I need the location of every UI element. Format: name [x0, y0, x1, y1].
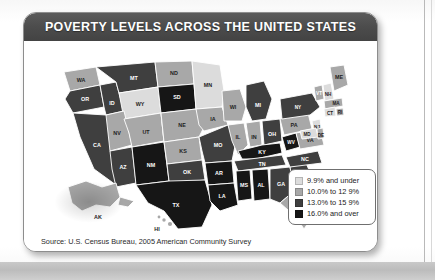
map-state-WI[interactable]: WI — [222, 89, 246, 121]
svg-text:AK: AK — [94, 214, 102, 220]
map-state-AR[interactable]: AR — [205, 161, 234, 185]
legend-label-tier4: 16.0% and over — [307, 209, 359, 218]
page-rule-right-secondary — [431, 0, 432, 280]
page-root: POVERTY LEVELS ACROSS THE UNITED STATES … — [0, 0, 435, 280]
legend-swatch-tier3 — [295, 199, 303, 207]
map-state-ME[interactable]: ME — [330, 65, 348, 91]
map-state-OK[interactable]: OK — [167, 160, 205, 183]
map-state-TX[interactable]: TX — [136, 180, 212, 229]
source-note: Source: U.S. Census Bureau, 2005 America… — [41, 237, 251, 246]
map-state-AK[interactable]: AK — [68, 181, 134, 220]
page-rule-right — [424, 0, 425, 280]
svg-text:HI: HI — [154, 226, 160, 232]
map-card: POVERTY LEVELS ACROSS THE UNITED STATES … — [23, 12, 378, 252]
card-body: WA OR ID MT — [24, 41, 377, 251]
map-state-MN[interactable]: MN — [192, 61, 224, 109]
map-state-NY[interactable]: NY — [280, 93, 320, 119]
legend-label-tier1: 9.9% and under — [307, 176, 359, 185]
map-state-SD[interactable]: SD — [158, 84, 196, 113]
map-legend: 9.9% and under 10.0% to 12 9% 13.0% to 1… — [288, 169, 376, 225]
map-state-AL[interactable]: AL — [252, 169, 270, 201]
map-state-RI[interactable]: RI — [336, 108, 344, 116]
map-state-KS[interactable]: KS — [164, 137, 202, 164]
map-state-MI[interactable]: MI — [246, 81, 272, 121]
legend-swatch-tier2 — [295, 188, 303, 196]
legend-label-tier3: 13.0% to 15 9% — [307, 198, 359, 207]
page-band-bottom — [0, 262, 435, 280]
map-state-NC[interactable]: NC — [286, 151, 322, 167]
map-state-CT[interactable]: CT — [324, 107, 336, 117]
legend-item-tier1[interactable]: 9.9% and under — [295, 175, 371, 186]
map-state-ND[interactable]: ND — [155, 61, 194, 87]
legend-swatch-tier1 — [295, 177, 303, 185]
map-state-NH[interactable]: NH — [323, 83, 334, 101]
legend-swatch-tier4 — [295, 210, 303, 218]
legend-item-tier4[interactable]: 16.0% and over — [295, 208, 371, 219]
legend-item-tier3[interactable]: 13.0% to 15 9% — [295, 197, 371, 208]
map-state-IN[interactable]: IN — [246, 121, 262, 147]
map-state-MS[interactable]: MS — [236, 170, 252, 201]
map-state-DE[interactable]: DE — [317, 128, 324, 139]
map-state-OH[interactable]: OH — [262, 119, 282, 145]
legend-label-tier2: 10.0% to 12 9% — [307, 187, 359, 196]
card-header: POVERTY LEVELS ACROSS THE UNITED STATES — [24, 13, 377, 41]
map-state-VT[interactable]: VT — [314, 85, 324, 101]
map-state-LA[interactable]: LA — [208, 183, 238, 211]
map-state-NM[interactable]: NM — [132, 142, 169, 185]
page-title: POVERTY LEVELS ACROSS THE UNITED STATES — [45, 20, 356, 34]
legend-item-tier2[interactable]: 10.0% to 12 9% — [295, 186, 371, 197]
